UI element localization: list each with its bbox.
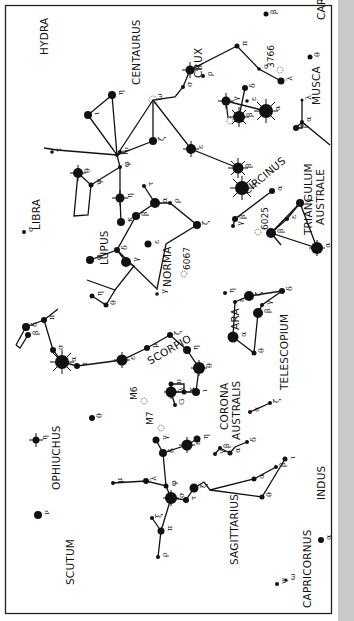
star-greek-label: β: [269, 9, 278, 14]
star-greek-label: μ: [115, 478, 124, 483]
star-greek-label: α: [239, 331, 248, 337]
star-greek-label: η: [227, 288, 236, 293]
star-greek-label: G: [177, 399, 186, 405]
star-greek-label: β: [299, 123, 308, 128]
star-greek-label: β: [140, 211, 149, 216]
star-greek-label: δ: [248, 83, 257, 88]
star-dot: [121, 257, 131, 267]
star-dot: [253, 308, 263, 318]
star-greek-label: π: [47, 315, 56, 320]
star-greek-label: ω: [288, 573, 297, 580]
star-greek-label: β: [276, 228, 285, 233]
star-greek-label: θ: [83, 168, 92, 173]
star-greek-label: α: [233, 447, 242, 453]
star-greek-label: θ: [257, 348, 266, 353]
star-dot: [145, 241, 152, 248]
star-greek-label: σ: [177, 492, 186, 498]
star-dot: [84, 111, 92, 119]
star-greek-label: α: [304, 116, 313, 122]
star-dot: [166, 387, 177, 398]
star-greek-label: β: [238, 214, 247, 219]
constellation-name: CARINA: [315, 0, 327, 20]
star-greek-label: δ: [120, 245, 129, 250]
cluster-label: 3766: [266, 45, 276, 68]
star-greek-label: θ: [109, 300, 118, 305]
chart-frame: [6, 6, 332, 614]
cluster-label: 6025: [260, 207, 270, 230]
star-greek-label: η: [95, 291, 104, 296]
star-greek-label: ε: [289, 215, 298, 219]
star-dot: [108, 91, 116, 99]
star-greek-label: ε: [237, 298, 246, 302]
star-dot: [34, 511, 42, 519]
star-greek-label: τ: [189, 495, 198, 500]
star-greek-label: η: [125, 193, 134, 198]
constellation-name: SAGITTARIUS: [228, 494, 240, 565]
bright-star-rays: [29, 62, 325, 506]
star-greek-label: β: [244, 163, 253, 168]
star-greek-label: θ: [313, 52, 322, 57]
star-dot: [278, 78, 285, 85]
star-dot: [233, 163, 244, 174]
star-greek-label: ζ: [157, 136, 166, 141]
star-greek-label: κ: [125, 217, 134, 222]
star-greek-label: γ: [235, 221, 244, 226]
star-greek-label: η: [201, 434, 210, 439]
star-greek-label: ζ: [201, 220, 210, 225]
constellation-name: MUSCA: [310, 65, 322, 105]
star-dot: [228, 332, 239, 343]
star-greek-label: δ: [249, 437, 258, 442]
star-dot: [233, 111, 245, 123]
constellation-name: CORONA: [218, 382, 230, 430]
star-dot: [222, 97, 231, 106]
star-greek-label: λ: [285, 76, 294, 81]
star-greek-label: ψ: [94, 179, 103, 185]
star-greek-label: α: [257, 473, 266, 479]
star-greek-label: β: [263, 308, 272, 313]
star-greek-label: α: [273, 105, 282, 111]
star-greek-label: τ: [54, 147, 63, 152]
star-dot: [55, 355, 69, 369]
star-dot: [186, 144, 196, 154]
star-dot: [150, 198, 160, 208]
star-dot: [193, 362, 205, 374]
star-dot: [86, 256, 94, 264]
star-greek-label: λ: [149, 476, 158, 481]
star-dot: [193, 221, 201, 229]
constellation-name: ARA: [229, 308, 241, 330]
star-greek-label: δ: [30, 322, 39, 327]
star-greek-label: ι: [200, 389, 209, 392]
constellation-name: NORMA: [161, 246, 173, 287]
constellation-name: OPHIUCHUS: [50, 425, 62, 490]
star-dot: [22, 323, 30, 331]
star-greek-label: α: [69, 356, 78, 362]
cluster-label: M7: [145, 412, 155, 426]
constellation-name: CAPRICORNUS: [301, 529, 313, 608]
star-greek-label: ε: [152, 240, 161, 244]
constellation-name: AUSTRALIS: [230, 380, 242, 440]
star-dot: [259, 104, 273, 118]
star-greek-label: θ: [265, 492, 274, 497]
star-greek-label: β: [245, 112, 254, 117]
star-greek-label: ζ: [173, 330, 182, 335]
star-greek-label: δ: [167, 448, 176, 453]
star-greek-label: θ: [95, 413, 104, 418]
cluster-label: 6067: [182, 247, 192, 270]
star-dot: [158, 528, 165, 535]
star-greek-label: θ: [205, 363, 214, 368]
star-dot: [116, 194, 125, 203]
star-greek-label: ν: [42, 510, 51, 515]
star-greek-label: α: [323, 242, 332, 248]
star-dot: [159, 449, 167, 457]
star-greek-label: β: [278, 462, 287, 467]
star-greek-label: σ: [185, 81, 194, 87]
constellation-name: AUSTRALE: [314, 169, 326, 225]
constellation-names-layer: HYDRACENTAURUSCRUXCARINAMUSCALIBRALUPUSC…: [30, 0, 327, 608]
constellation-name: SCUTUM: [64, 539, 76, 585]
star-greek-label: κ: [187, 387, 196, 392]
constellation-lines: [16, 46, 330, 557]
star-greek-label: ε: [128, 356, 137, 360]
star-greek-label: ε: [196, 145, 205, 149]
star-dot: [153, 437, 160, 444]
star-greek-label: α: [160, 197, 169, 203]
